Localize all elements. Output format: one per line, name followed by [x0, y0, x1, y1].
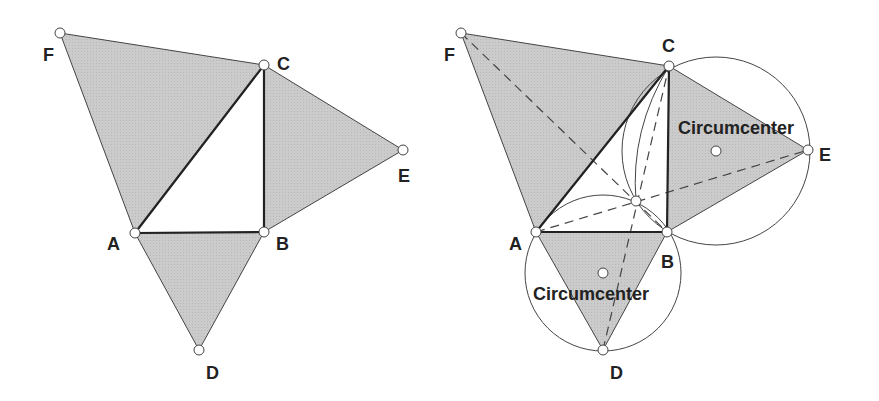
point-a — [531, 227, 541, 237]
label-a: A — [107, 234, 120, 254]
point-b — [259, 227, 269, 237]
label-f: F — [43, 45, 54, 65]
point-a — [130, 228, 140, 238]
label-d: D — [610, 363, 623, 383]
triangle-abd — [135, 232, 264, 350]
label-e: E — [398, 166, 410, 186]
circumcenter-bottom-label: Circumcenter — [533, 284, 649, 304]
fermat-point — [631, 196, 641, 206]
point-d — [194, 345, 204, 355]
label-b: B — [661, 252, 674, 272]
label-d: D — [206, 363, 219, 383]
point-c — [259, 60, 269, 70]
diagram-canvas: F C E A B D F C — [0, 0, 879, 401]
circumcenter-top — [711, 146, 721, 156]
triangle-bce — [264, 65, 403, 232]
point-e — [803, 145, 813, 155]
point-f — [55, 28, 65, 38]
right-figure: F C E A B D Circumcenter Circumcenter — [444, 28, 831, 383]
label-a: A — [509, 234, 522, 254]
point-e — [398, 145, 408, 155]
point-d — [598, 345, 608, 355]
label-e: E — [819, 145, 831, 165]
triangle-bce — [667, 66, 808, 232]
point-b — [662, 227, 672, 237]
label-c: C — [662, 36, 675, 56]
circumcenter-top-label: Circumcenter — [678, 118, 794, 138]
left-figure: F C E A B D — [43, 28, 410, 383]
point-c — [664, 61, 674, 71]
point-f — [456, 28, 466, 38]
napoleon-fermat-diagram: F C E A B D F C — [0, 0, 879, 401]
circumcenter-bottom — [598, 268, 608, 278]
label-c: C — [277, 54, 290, 74]
label-b: B — [276, 234, 289, 254]
label-f: F — [444, 45, 455, 65]
